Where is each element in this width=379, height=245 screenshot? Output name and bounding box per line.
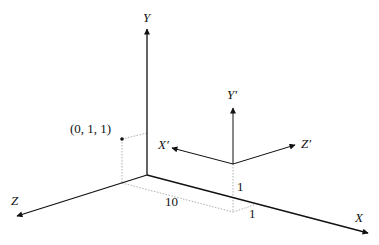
x-axis-label: X (354, 210, 364, 225)
z-axis (17, 175, 147, 216)
y-prime-label: Y′ (227, 87, 237, 102)
guide-lines (122, 133, 254, 212)
z-prime-label: Z′ (301, 136, 311, 151)
x-offset-label: 10 (165, 194, 178, 209)
y-axis-label: Y (143, 10, 152, 25)
x-prime-axis (172, 148, 233, 164)
guide-point-to-y (122, 133, 147, 139)
point-label: (0, 1, 1) (70, 121, 111, 136)
y-offset-label: 1 (237, 179, 244, 194)
x-prime-label: X′ (157, 137, 169, 152)
z-axis-label: Z (11, 193, 19, 208)
z-prime-axis (233, 145, 295, 164)
x-axis (147, 175, 368, 233)
point-marker (120, 137, 124, 141)
coordinate-diagram: Y Z X Y′ X′ Z′ (0, 1, 1) 10 1 1 (0, 0, 379, 245)
z-offset-label: 1 (249, 206, 256, 221)
